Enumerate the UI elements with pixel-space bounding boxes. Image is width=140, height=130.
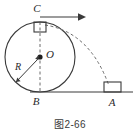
label-point-c: C bbox=[33, 2, 41, 14]
block-at-a bbox=[104, 82, 121, 92]
label-point-b: B bbox=[33, 95, 40, 107]
figure-caption: 图2-66 bbox=[0, 116, 140, 130]
label-point-o: O bbox=[46, 48, 54, 60]
label-point-a: A bbox=[108, 96, 116, 108]
velocity-arrow bbox=[40, 13, 86, 21]
physics-figure: C O B A R 图2-66 bbox=[0, 0, 140, 130]
projectile-trajectory bbox=[45, 25, 109, 86]
label-radius-r: R bbox=[14, 61, 21, 72]
diagram-canvas: C O B A R bbox=[0, 0, 140, 130]
